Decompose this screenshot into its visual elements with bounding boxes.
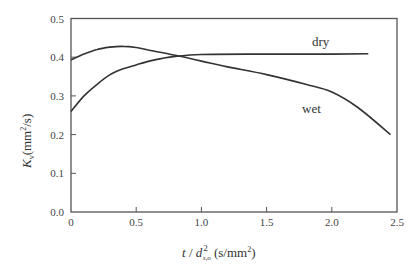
series-line-wet <box>71 46 391 134</box>
x-tick-label: 2.5 <box>390 216 404 228</box>
x-axis-ticks: 00.51.01.52.02.5 <box>68 207 404 228</box>
y-tick-label: 0.5 <box>50 13 64 25</box>
series-line-dry <box>71 54 368 112</box>
chart: 0.00.10.20.30.40.5 00.51.01.52.02.5 dry … <box>0 0 419 273</box>
y-tick-label: 0.0 <box>50 206 64 218</box>
y-tick-label: 0.1 <box>50 167 64 179</box>
x-tick-label: 1.0 <box>195 216 209 228</box>
series-label-wet: wet <box>302 101 321 116</box>
series-layer <box>71 46 391 134</box>
y-axis-ticks: 0.00.10.20.30.40.5 <box>50 13 76 219</box>
y-axis-title: Kv(mm2/s) <box>19 114 36 169</box>
y-tick-label: 0.4 <box>50 51 64 63</box>
plot-border <box>71 19 397 213</box>
y-tick-label: 0.2 <box>50 129 64 141</box>
plot-frame <box>71 19 397 213</box>
x-tick-label: 1.5 <box>260 216 274 228</box>
x-tick-label: 2.0 <box>325 216 339 228</box>
x-tick-label: 0.5 <box>129 216 143 228</box>
x-axis-title: t / d2s,o (s/mm2) <box>182 243 256 262</box>
x-tick-label: 0 <box>68 216 74 228</box>
y-tick-label: 0.3 <box>50 90 64 102</box>
series-label-dry: dry <box>312 34 330 49</box>
